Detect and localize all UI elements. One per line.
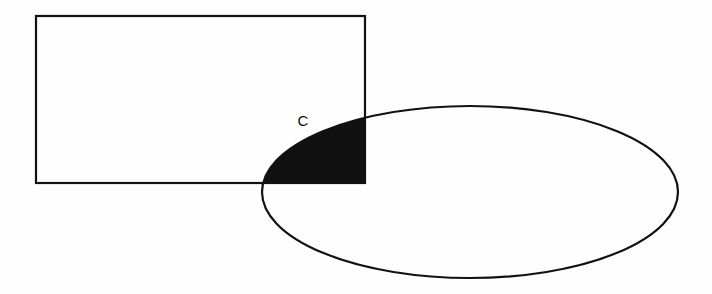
figure-svg: C [0, 0, 712, 294]
intersection-fill-shape [262, 106, 678, 278]
figure-canvas: C [0, 0, 712, 294]
intersection-label: C [298, 112, 309, 129]
shaded-intersection [262, 106, 678, 278]
